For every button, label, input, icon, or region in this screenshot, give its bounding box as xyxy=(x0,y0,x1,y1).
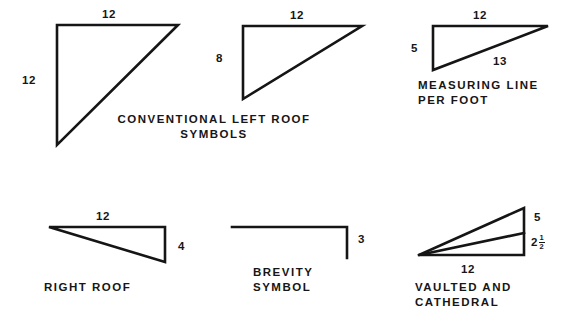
caption-line-2: SYMBOL xyxy=(253,280,373,295)
dim-whole-number: 2 xyxy=(531,236,538,248)
figure-left-roof-8-12-lines xyxy=(243,26,362,99)
caption-brevity-symbol: BREVITY SYMBOL xyxy=(253,265,373,295)
dim-hypotenuse-measuring-line: 13 xyxy=(493,55,507,67)
figure-right-roof-lines xyxy=(49,227,165,262)
caption-line-2: CATHEDRAL xyxy=(415,295,575,310)
caption-line-1: RIGHT ROOF xyxy=(44,280,194,295)
dim-right-brevity-symbol: 3 xyxy=(358,233,365,245)
figure-measuring-line-per-foot-lines xyxy=(433,26,548,70)
caption-line-1: VAULTED AND xyxy=(415,280,575,295)
figure-vaulted-and-cathedral-lines xyxy=(419,208,524,255)
one-half-fraction: 12 xyxy=(539,234,546,251)
dim-left-measuring-line: 5 xyxy=(411,42,418,54)
caption-line-1: CONVENTIONAL LEFT ROOF xyxy=(108,112,320,127)
dim-left-conventional-left-roof: 12 xyxy=(22,74,36,86)
caption-measuring-line-per-foot: MEASURING LINE PER FOOT xyxy=(418,78,568,108)
caption-line-1: BREVITY xyxy=(253,265,373,280)
dim-top-left-roof-8-12: 12 xyxy=(290,9,304,21)
dim-right-upper-vaulted: 5 xyxy=(534,211,541,223)
caption-conventional-left-roof: CONVENTIONAL LEFT ROOF SYMBOLS xyxy=(108,112,320,142)
dim-left-left-roof-8-12: 8 xyxy=(216,52,223,64)
dim-top-right-roof: 12 xyxy=(96,210,110,222)
caption-vaulted-and-cathedral: VAULTED AND CATHEDRAL xyxy=(415,280,575,310)
caption-line-1: MEASURING LINE xyxy=(418,78,568,93)
caption-line-2: SYMBOLS xyxy=(108,127,320,142)
dim-bottom-vaulted: 12 xyxy=(461,263,475,275)
dim-top-conventional-left-roof: 12 xyxy=(102,8,116,20)
caption-right-roof: RIGHT ROOF xyxy=(44,280,194,295)
diagram-sheet: 12 12 CONVENTIONAL LEFT ROOF SYMBOLS 12 … xyxy=(0,0,577,315)
caption-line-2: PER FOOT xyxy=(418,93,568,108)
dim-right-lower-vaulted: 212 xyxy=(531,234,545,251)
dim-top-measuring-line: 12 xyxy=(473,9,487,21)
fraction-denominator: 2 xyxy=(539,243,546,251)
dim-right-right-roof: 4 xyxy=(178,240,185,252)
figure-brevity-symbol-lines xyxy=(232,227,347,258)
